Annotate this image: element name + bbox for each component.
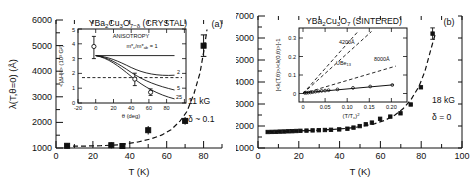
inset-a-x-tick-60: 60 [146,105,152,111]
panel-b-xlabel: T (K) [350,166,371,177]
inset-b-label-8000: 8000Å [374,56,390,62]
inset-b-label-4200: 4200Å [339,39,355,45]
panel-b-y-tick-6000: 6000 [236,33,254,43]
inset-b-y-tick-03: 0.3 [288,35,296,41]
panel-b-y-tick-labels: 1000 2000 3000 4000 5000 6000 7000 [236,11,254,153]
panel-b-y-tick-1000: 1000 [236,143,254,153]
panel-b-x-tick-20: 20 [294,151,304,161]
panel-b-y-tick-4000: 4000 [236,77,254,87]
inset-a-x-tick-20: 20 [110,105,116,111]
inset-b-y-tick-01: 0.1 [288,72,296,78]
x-tick-60: 60 [162,151,172,161]
inset-a-x-tick-80: 80 [163,105,169,111]
panel-a-anno-delta: δ ~ 0.1 [188,114,215,124]
inset-b-x-tick-010: 0.10 [342,104,353,110]
y-tick-2000: 2000 [32,117,52,127]
inset-b-x-tick-015: 0.15 [364,104,375,110]
inset-a-y-tick-5: 5 [72,27,75,33]
inset-b-y-tick-02: 0.2 [288,54,296,60]
panel-b-x-tick-40: 40 [335,151,345,161]
inset-a-title: ANISOTROPY [113,33,150,39]
inset-a-x-tick-m20: -20 [74,105,82,111]
panel-a-canvas: 1000 2000 3000 4000 5000 6000 [0,0,236,181]
panel-b-x-tick-100: 100 [454,151,469,161]
inset-b-x-tick-020: 0.20 [386,104,397,110]
figure-root: 1000 2000 3000 4000 5000 6000 [0,0,472,181]
panel-a: 1000 2000 3000 4000 5000 6000 [0,0,236,181]
panel-b-title: YBa2Cu3O7 (SINTERED) [306,16,402,27]
panel-b-canvas: 1000 2000 3000 4000 5000 6000 7000 [236,0,472,181]
y-tick-1000: 1000 [32,143,52,153]
x-tick-0: 0 [53,151,58,161]
inset-a-y-tick-0: 0 [72,100,75,106]
panel-b-x-ticks [258,141,462,148]
inset-a-x-tick-0: 0 [94,105,97,111]
panel-a-inset: -20 0 20 40 60 80 0 1 2 3 4 5 θ (deg) <|… [58,27,186,120]
panel-a-x-tick-labels: 0 20 40 60 80 [53,151,208,161]
x-tick-80: 80 [199,151,209,161]
inset-a-y-tick-4: 4 [72,41,75,47]
panel-b-y-tick-2000: 2000 [236,121,254,131]
inset-b-xlabel: (T/Tc)2 [343,112,361,120]
inset-a-ylabel: <|ΔH|²> (10³ G²) [58,45,64,87]
inset-b-x-tick-005: 0.05 [320,104,331,110]
panel-a-anno-field: 11 kG [188,96,211,106]
panel-b-x-tick-0: 0 [255,151,260,161]
panel-b-x-tick-80: 80 [416,151,426,161]
inset-a-label-2: 2 [177,69,180,75]
y-tick-3000: 3000 [32,92,52,102]
panel-a-xlabel: T (K) [129,166,150,177]
panel-a-ylabel: λ(T,θ=0) (Å) [7,59,18,109]
y-tick-4000: 4000 [32,66,52,76]
inset-a-label-5: 5 [177,85,180,91]
panel-b-anno-field: 18 kG [432,95,455,105]
panel-b-letter: (b) [444,17,455,27]
panel-b-x-tick-labels: 0 20 40 60 80 100 [255,151,469,161]
panel-b-y-tick-7000: 7000 [236,11,254,21]
panel-a-title: YBa2Cu3O7−δ (CRYSTAL) [89,18,187,29]
inset-a-y-tick-1: 1 [72,85,75,91]
panel-a-y-tick-labels: 1000 2000 3000 4000 5000 6000 [32,15,52,153]
inset-a-label-25: 25 [176,94,182,100]
y-tick-6000: 6000 [32,15,52,25]
panel-b-y-tick-3000: 3000 [236,99,254,109]
panel-b-inset: 0 0.05 0.10 0.15 0.20 0 0.1 0.2 0.3 (T/T… [275,28,407,120]
inset-a-y-tick-3: 3 [72,56,75,62]
inset-b-y-tick-0: 0 [293,91,296,97]
y-tick-5000: 5000 [32,41,52,51]
inset-a-ratio-label: m*c/m*ab = 1 [126,43,157,50]
x-tick-20: 20 [88,151,98,161]
panel-b-anno-delta: δ = 0 [432,112,452,122]
panel-b: 1000 2000 3000 4000 5000 6000 7000 [236,0,472,181]
panel-b-y-tick-5000: 5000 [236,55,254,65]
inset-b-label-ube13: UBe13 [336,60,351,67]
inset-a-xlabel: θ (deg) [122,113,140,119]
panel-b-x-tick-60: 60 [375,151,385,161]
panel-a-letter: (a) [212,19,223,29]
x-tick-40: 40 [125,151,135,161]
inset-a-y-tick-2: 2 [72,70,75,76]
inset-b-ylabel: [<λ(T,θ)>/<λ(0,θ)>]-1 [275,39,281,92]
inset-a-x-tick-40: 40 [128,105,134,111]
inset-b-x-tick-0: 0 [301,104,304,110]
